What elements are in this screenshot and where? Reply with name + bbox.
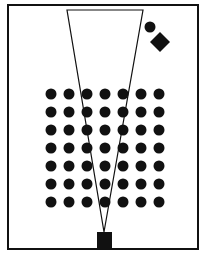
- grid-dot: [136, 197, 147, 208]
- grid-dot: [82, 143, 93, 154]
- grid-dot: [136, 161, 147, 172]
- grid-dot: [82, 89, 93, 100]
- grid-dot: [136, 89, 147, 100]
- grid-dot: [46, 179, 57, 190]
- grid-dot: [82, 161, 93, 172]
- grid-dot: [118, 179, 129, 190]
- diagram-canvas: [0, 0, 206, 255]
- grid-dot: [154, 89, 165, 100]
- grid-dot: [64, 89, 75, 100]
- grid-dot: [64, 197, 75, 208]
- grid-dot: [118, 161, 129, 172]
- grid-dot: [100, 161, 111, 172]
- grid-dot: [46, 89, 57, 100]
- grid-dot: [136, 125, 147, 136]
- outlier-circle: [145, 22, 156, 33]
- grid-dot: [118, 125, 129, 136]
- grid-dot: [100, 125, 111, 136]
- grid-dot: [82, 197, 93, 208]
- observer-square: [97, 232, 112, 248]
- grid-dot: [64, 161, 75, 172]
- grid-dot: [100, 89, 111, 100]
- grid-dot: [100, 107, 111, 118]
- grid-dot: [82, 107, 93, 118]
- grid-dot: [100, 143, 111, 154]
- grid-dot: [46, 107, 57, 118]
- grid-dot: [46, 125, 57, 136]
- grid-dot: [136, 179, 147, 190]
- grid-dot: [118, 89, 129, 100]
- grid-dot: [100, 179, 111, 190]
- grid-dot: [100, 197, 111, 208]
- grid-dot: [154, 161, 165, 172]
- outlier-diamond: [150, 32, 170, 52]
- grid-dot: [46, 161, 57, 172]
- grid-dot: [46, 143, 57, 154]
- grid-dot: [118, 143, 129, 154]
- grid-dot: [64, 125, 75, 136]
- grid-dot: [154, 125, 165, 136]
- grid-dot: [64, 143, 75, 154]
- grid-dot: [82, 125, 93, 136]
- grid-dot: [136, 107, 147, 118]
- grid-dot: [64, 179, 75, 190]
- grid-dot: [118, 197, 129, 208]
- grid-dot: [154, 143, 165, 154]
- dot-grid: [46, 89, 165, 208]
- grid-dot: [46, 197, 57, 208]
- grid-dot: [136, 143, 147, 154]
- grid-dot: [64, 107, 75, 118]
- grid-dot: [154, 197, 165, 208]
- grid-dot: [154, 179, 165, 190]
- grid-dot: [118, 107, 129, 118]
- grid-dot: [154, 107, 165, 118]
- grid-dot: [82, 179, 93, 190]
